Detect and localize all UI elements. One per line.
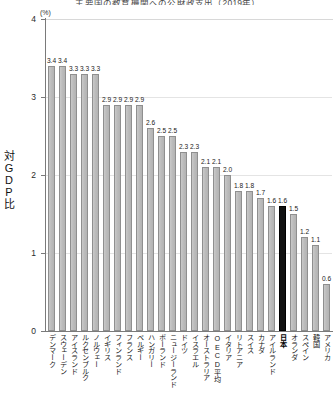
bar-value-label: 2.3 xyxy=(179,144,188,151)
x-axis-label: ハンガリー xyxy=(146,334,155,368)
x-axis-label: 日本 xyxy=(278,334,287,347)
x-axis-label: 韓国 xyxy=(311,334,320,347)
bar-value-label: 2.5 xyxy=(157,128,166,135)
bar[interactable] xyxy=(191,152,199,331)
bar-value-label: 2.1 xyxy=(201,159,210,166)
bar[interactable] xyxy=(312,245,320,331)
bar-slot xyxy=(224,19,232,331)
bar-slot xyxy=(257,19,265,331)
bar-value-label: 0.6 xyxy=(322,276,331,283)
bar-series: 3.43.43.33.33.32.92.92.92.92.62.52.52.32… xyxy=(46,19,332,331)
bar-slot xyxy=(246,19,254,331)
bar-value-label: 2.1 xyxy=(212,159,221,166)
bar-value-label: 3.3 xyxy=(80,66,89,73)
chart-title: 主要国の教育機関への公財政支出（2019年） xyxy=(0,0,336,5)
y-axis-title-char-5: 比 xyxy=(2,198,16,210)
x-axis-label: スウェーデン xyxy=(58,334,67,374)
bar-slot xyxy=(290,19,298,331)
x-axis-label: イタリア xyxy=(223,334,232,361)
bar-slot xyxy=(103,19,111,331)
bar-slot xyxy=(158,19,166,331)
y-axis-unit-label: (%) xyxy=(40,9,51,16)
x-axis-label: OECD平均 xyxy=(212,334,221,382)
x-axis-label: スペイン xyxy=(300,334,309,361)
x-axis-label: ニュージーランド xyxy=(168,334,177,388)
bar[interactable] xyxy=(114,105,122,331)
bar-slot xyxy=(279,19,287,331)
bar[interactable] xyxy=(70,74,78,331)
bar[interactable] xyxy=(169,136,177,331)
bar[interactable] xyxy=(268,206,276,331)
bar[interactable] xyxy=(213,167,221,331)
y-tick-0 xyxy=(41,331,46,332)
x-axis-label: オーストラリア xyxy=(201,334,210,381)
bar-value-label: 2.5 xyxy=(168,128,177,135)
bar[interactable] xyxy=(301,237,309,331)
x-axis-label: アイルランド xyxy=(267,334,276,374)
bar-value-label: 3.3 xyxy=(69,66,78,73)
bar[interactable] xyxy=(147,128,155,331)
bar[interactable] xyxy=(103,105,111,331)
bar[interactable] xyxy=(136,105,144,331)
y-tick-label-0: 0 xyxy=(0,327,36,336)
bar-chart: 主要国の教育機関への公財政支出（2019年） (%) 対 G D P 比 012… xyxy=(0,0,336,404)
x-axis-label: リトアニア xyxy=(234,334,243,368)
bar-value-label: 1.8 xyxy=(234,183,243,190)
bar-slot xyxy=(48,19,56,331)
bar[interactable] xyxy=(257,198,265,331)
bar[interactable] xyxy=(81,74,89,331)
bar-slot xyxy=(169,19,177,331)
x-axis-label: フィンランド xyxy=(113,334,122,374)
bar[interactable] xyxy=(246,191,254,331)
bar-slot xyxy=(191,19,199,331)
bar-value-label: 2.9 xyxy=(113,97,122,104)
x-axis-label: デンマーク xyxy=(47,334,56,368)
bar-slot xyxy=(114,19,122,331)
bar-slot xyxy=(180,19,188,331)
bar-value-label: 1.2 xyxy=(300,229,309,236)
bar-value-label: 1.6 xyxy=(267,198,276,205)
y-tick-label-2: 2 xyxy=(0,171,36,180)
bar-value-label: 1.6 xyxy=(278,198,287,205)
x-axis-labels: デンマークスウェーデンアイスランドルクセンブルクノルウェーイギリスフィンランドフ… xyxy=(46,334,332,404)
bar[interactable] xyxy=(59,66,67,331)
x-axis-label: フランス xyxy=(124,334,133,361)
bar[interactable] xyxy=(202,167,210,331)
bar-slot xyxy=(136,19,144,331)
bar-value-label: 3.4 xyxy=(47,58,56,65)
bar[interactable] xyxy=(290,214,298,331)
bar-value-label: 1.1 xyxy=(311,237,320,244)
bar[interactable] xyxy=(92,74,100,331)
bar[interactable] xyxy=(125,105,133,331)
x-axis-label: イスラエル xyxy=(190,334,199,368)
bar-slot xyxy=(312,19,320,331)
bar-highlighted[interactable] xyxy=(279,206,287,331)
bar-value-label: 2.6 xyxy=(146,120,155,127)
bar[interactable] xyxy=(158,136,166,331)
bar-slot xyxy=(323,19,331,331)
y-axis-title: 対 G D P 比 xyxy=(2,150,16,210)
y-axis-title-char-4: P xyxy=(2,186,16,198)
bar-value-label: 2.9 xyxy=(124,97,133,104)
y-tick-label-4: 4 xyxy=(0,15,36,24)
bar-value-label: 1.8 xyxy=(245,183,254,190)
x-axis-label: ルクセンブルク xyxy=(80,334,89,381)
bar-value-label: 2.9 xyxy=(135,97,144,104)
x-axis-label: アイスランド xyxy=(69,334,78,374)
x-axis-label: オランダ xyxy=(289,334,298,361)
bar[interactable] xyxy=(180,152,188,331)
y-tick-label-1: 1 xyxy=(0,249,36,258)
bar-value-label: 3.3 xyxy=(91,66,100,73)
bar-value-label: 2.3 xyxy=(190,144,199,151)
bar[interactable] xyxy=(323,284,331,331)
bar[interactable] xyxy=(224,175,232,331)
bar-value-label: 1.5 xyxy=(289,206,298,213)
bar-slot xyxy=(202,19,210,331)
bar[interactable] xyxy=(235,191,243,331)
bar[interactable] xyxy=(48,66,56,331)
bar-slot xyxy=(147,19,155,331)
bar-slot xyxy=(301,19,309,331)
x-axis-label: カナダ xyxy=(256,334,265,354)
y-axis-title-char-1: 対 xyxy=(2,150,16,162)
bar-slot xyxy=(213,19,221,331)
